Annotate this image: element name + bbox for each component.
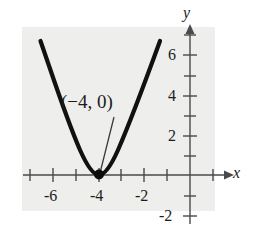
y-tick-label-minus2: -2 [159,208,172,224]
parabola-figure: ) [0,0,265,236]
y-axis-arrow [186,24,195,34]
y-axis-label: y [183,5,190,21]
plot-svg [0,0,265,236]
y-tick-label-2: 2 [168,128,176,144]
x-axis-label: x [233,165,240,181]
y-tick-label-6: 6 [168,47,176,63]
y-axis [186,24,195,224]
x-tick-label-minus2: -2 [135,188,148,204]
x-tick-label-minus4: -4 [90,188,103,204]
vertex-annotation-label: (−4, 0) [61,92,113,111]
x-tick-label-minus6: -6 [44,188,57,204]
y-tick-label-4: 4 [168,88,176,104]
x-axis [23,171,234,180]
vertex-point-marker [94,170,104,180]
